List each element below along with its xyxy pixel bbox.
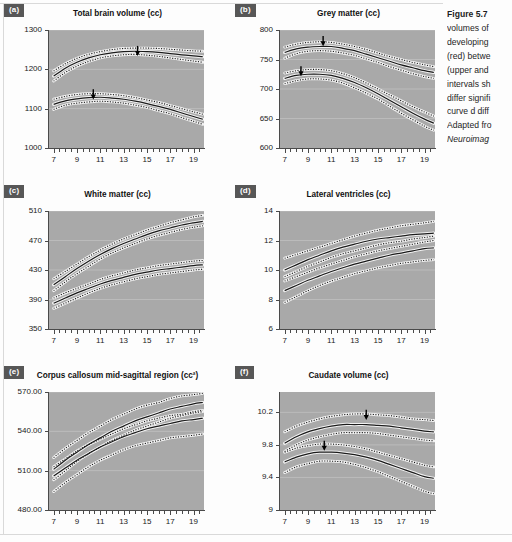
x-tick-minor: [188, 330, 189, 333]
x-tick-label: 7: [51, 156, 55, 164]
y-tick-label: 800: [235, 26, 273, 34]
arrow-down-icon: [322, 441, 327, 451]
caption-line: Figure 5.7: [447, 8, 512, 22]
x-tick-major: [170, 149, 171, 153]
y-tick: [276, 60, 280, 61]
x-tick-major: [54, 511, 55, 515]
x-tick-minor: [153, 511, 154, 514]
x-tick-minor: [343, 511, 344, 514]
figure-caption: Figure 5.7volumes ofdeveloping(red) betw…: [447, 8, 512, 147]
plot-area-c: [49, 211, 204, 329]
x-tick-major: [100, 511, 101, 515]
chart-panel-d: (d)Lateral ventricles (cc)68101214791113…: [235, 185, 441, 357]
x-tick-label: 17: [166, 518, 175, 526]
x-tick-minor: [419, 330, 420, 333]
curve-halo: [54, 410, 203, 466]
x-tick-minor: [153, 149, 154, 152]
y-tick: [276, 148, 280, 149]
plot-canvas-a: [49, 30, 204, 148]
x-tick-minor: [413, 511, 414, 514]
x-tick-label: 19: [420, 518, 429, 526]
x-tick-label: 11: [327, 518, 335, 526]
x-tick-minor: [199, 330, 200, 333]
x-tick-minor: [83, 149, 84, 152]
x-tick-minor: [176, 511, 177, 514]
x-tick-minor: [59, 330, 60, 333]
x-tick-minor: [366, 511, 367, 514]
x-tick-minor: [296, 149, 297, 152]
x-tick-minor: [182, 330, 183, 333]
x-tick-minor: [135, 330, 136, 333]
figure-page: (a)Total brain volume (cc)10001100120013…: [0, 0, 512, 542]
y-tick-label: 470: [4, 237, 42, 245]
curve-halo: [285, 74, 434, 123]
x-tick-minor: [182, 149, 183, 152]
caption-line: (upper and: [447, 64, 512, 78]
x-tick-label: 9: [306, 337, 310, 345]
x-tick-minor: [159, 330, 160, 333]
x-tick-major: [378, 511, 379, 515]
x-tick-major: [124, 149, 125, 153]
x-tick-minor: [372, 511, 373, 514]
chart-panel-c: (c)White matter (cc)35039043047051079111…: [4, 185, 210, 357]
x-tick-minor: [320, 511, 321, 514]
x-tick-minor: [141, 511, 142, 514]
x-tick-minor: [320, 149, 321, 152]
x-tick-minor: [302, 330, 303, 333]
x-tick-minor: [65, 149, 66, 152]
y-tick: [276, 270, 280, 271]
x-tick-major: [355, 149, 356, 153]
x-tick-major: [378, 330, 379, 334]
x-tick-minor: [325, 330, 326, 333]
x-tick-minor: [153, 330, 154, 333]
x-tick-minor: [89, 149, 90, 152]
y-tick-label: 750: [235, 56, 273, 64]
x-tick-label: 19: [189, 518, 198, 526]
x-tick-minor: [395, 330, 396, 333]
x-tick-minor: [337, 511, 338, 514]
x-tick-label: 13: [119, 337, 128, 345]
plot-canvas-e: [49, 392, 204, 510]
x-tick-label: 7: [282, 337, 286, 345]
x-tick-minor: [71, 149, 72, 152]
x-tick-major: [77, 511, 78, 515]
caption-line: volumes of: [447, 22, 512, 36]
x-tick-minor: [372, 330, 373, 333]
x-tick-minor: [71, 330, 72, 333]
y-tick-label: 510.00: [4, 467, 42, 475]
x-tick-minor: [164, 330, 165, 333]
x-tick-minor: [366, 330, 367, 333]
x-tick-minor: [320, 330, 321, 333]
y-tick: [276, 241, 280, 242]
caption-line: (red) betwe: [447, 50, 512, 64]
y-tick: [45, 392, 49, 393]
x-tick-minor: [199, 149, 200, 152]
x-tick-minor: [419, 511, 420, 514]
plot-area-f: [280, 392, 435, 510]
x-tick-minor: [135, 149, 136, 152]
caption-line: intervals sh: [447, 78, 512, 92]
y-tick: [276, 477, 280, 478]
x-tick-label: 7: [282, 156, 286, 164]
y-tick-label: 390: [4, 296, 42, 304]
panel-title-d: Lateral ventricles (cc): [247, 191, 450, 199]
panel-title-f: Caudate volume (cc): [247, 372, 450, 380]
plot-canvas-b: [280, 30, 435, 148]
y-tick: [276, 211, 280, 212]
x-tick-minor: [384, 330, 385, 333]
x-tick-minor: [182, 511, 183, 514]
x-tick-minor: [94, 511, 95, 514]
x-tick-major: [401, 511, 402, 515]
curve-ci: [54, 410, 203, 466]
x-tick-major: [331, 330, 332, 334]
x-tick-major: [401, 149, 402, 153]
x-tick-label: 19: [420, 156, 429, 164]
x-tick-minor: [314, 330, 315, 333]
y-tick-label: 9: [235, 506, 273, 514]
plot-canvas-d: [280, 211, 435, 329]
x-tick-minor: [349, 511, 350, 514]
y-tick-label: 8: [235, 296, 273, 304]
x-tick-label: 7: [51, 337, 55, 345]
chart-panel-a: (a)Total brain volume (cc)10001100120013…: [4, 4, 210, 176]
x-tick-minor: [430, 511, 431, 514]
